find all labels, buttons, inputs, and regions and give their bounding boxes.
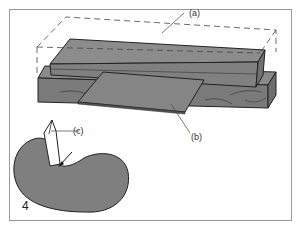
label-b: (b) bbox=[191, 132, 202, 142]
panel-number: 4 bbox=[22, 199, 29, 213]
kidney-shape bbox=[14, 138, 129, 212]
label-c: (c) bbox=[73, 126, 84, 136]
diagram-illustration bbox=[0, 0, 298, 227]
label-a: (a) bbox=[189, 8, 200, 18]
